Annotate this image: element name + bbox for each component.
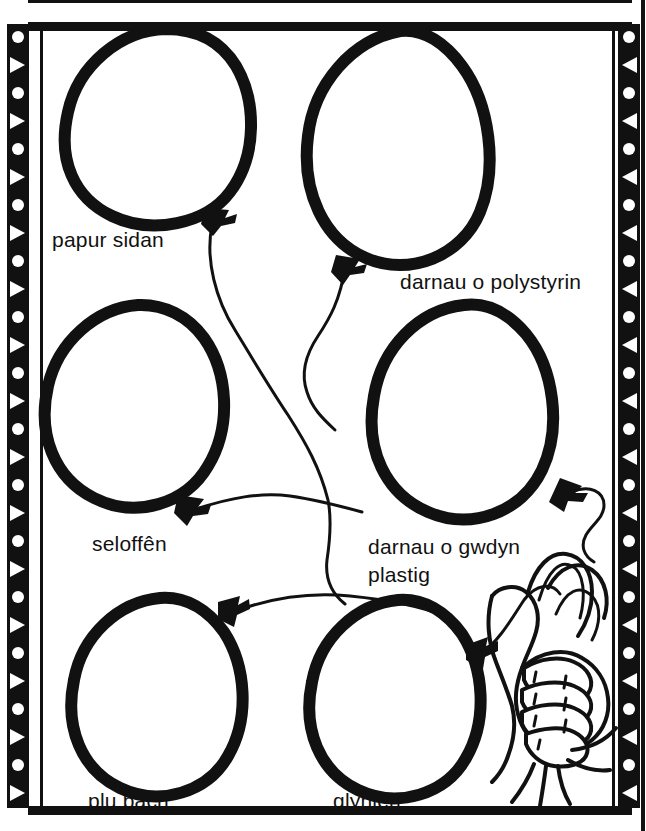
balloon-outline-1 — [65, 29, 251, 225]
balloon-outline-5 — [71, 598, 242, 796]
hand-illustration — [489, 587, 616, 806]
worksheet-page: papur sidan darnau o polystyrin seloffên… — [0, 0, 646, 831]
string-balloon-2 — [304, 268, 345, 430]
label-darnau-o-gwdyn: darnau o gwdyn — [368, 535, 520, 559]
string-balloon-1 — [210, 225, 345, 604]
balloon-outline-3 — [45, 305, 224, 508]
balloon-outline-4 — [372, 305, 554, 520]
label-papur-sidan: papur sidan — [52, 228, 164, 252]
balloon-outline-2 — [307, 31, 490, 265]
balloon-outline-6 — [309, 600, 480, 798]
label-darnau-o-polystyrin: darnau o polystyrin — [400, 270, 581, 294]
hand-thumb-outline — [489, 596, 515, 782]
label-glynlen: glynlen — [333, 789, 401, 813]
hand-knuckle-outline — [492, 587, 538, 668]
label-plu-bach: plu bach — [88, 789, 169, 813]
balloon-knot-4 — [549, 478, 588, 512]
balloon-line-art — [0, 0, 646, 831]
string-balloon-3 — [196, 495, 362, 512]
balloon-knot-3 — [174, 495, 211, 526]
balloon-knot-1 — [201, 208, 237, 236]
label-plastig: plastig — [368, 563, 430, 587]
label-seloffen: seloffên — [92, 532, 167, 556]
